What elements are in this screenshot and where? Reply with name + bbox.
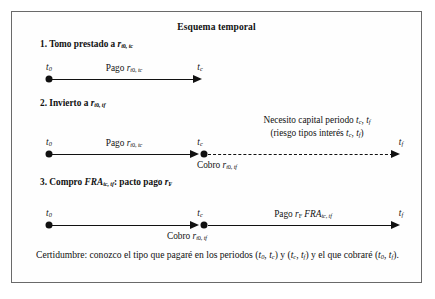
- step-3-tick-end: tf: [399, 208, 403, 218]
- step-2-axis-sub: t0, tc: [130, 141, 142, 148]
- step-2-arrow-mid: [190, 150, 199, 158]
- step-2-heading-text: 2. Invierto a: [40, 98, 91, 108]
- step-2-arrow-end: [391, 150, 400, 158]
- step-3-below-label: Cobro rt0, tf: [167, 231, 207, 241]
- step-3-below-sub: t0, tf: [196, 234, 207, 241]
- step-3-heading: 3. Compro FRAtc, tf: pacto pago rF: [40, 177, 172, 187]
- figure-frame: Esquema temporal 1. Tomo prestado a rt0,…: [11, 11, 422, 283]
- step-1-axis-sub: t0, tc: [130, 66, 142, 73]
- step-3-tick-mid: tc: [197, 208, 202, 218]
- step-3-heading-sub: tc, tf: [103, 180, 114, 187]
- figure-title: Esquema temporal: [12, 22, 421, 32]
- step-3-heading-var: FRA: [85, 177, 104, 187]
- step-3-dot-start: [46, 222, 53, 229]
- step-3-arrow-mid: [190, 221, 199, 229]
- step-1-axis-label-text: Pago: [106, 63, 127, 73]
- step-1-arrow-end: [193, 75, 202, 83]
- step-1-tick-end: tc: [197, 62, 202, 72]
- step-2-heading: 2. Invierto a rt0, tf: [40, 98, 105, 108]
- step-2-below-label: Cobro rt0, tf: [197, 160, 237, 170]
- step-3-tick-start: t0: [46, 208, 52, 218]
- step-2-note-line-2: (riesgo tipos interés tc, tf): [270, 128, 363, 138]
- step-2-below-label-text: Cobro: [197, 160, 223, 170]
- step-3-axis-sub: tc, tf: [321, 212, 331, 219]
- step-1-dot-start: [46, 76, 53, 83]
- step-3-axis-label: Pago rF FRAtc, tf: [274, 209, 332, 219]
- step-2-axis-line-solid: [49, 154, 197, 155]
- step-2-dot-start: [46, 151, 53, 158]
- step-3-below-label-text: Cobro: [167, 231, 193, 241]
- figure-inner: Esquema temporal 1. Tomo prestado a rt0,…: [12, 12, 421, 282]
- step-3-arrow-end: [391, 221, 400, 229]
- step-2-tick-start: t0: [46, 137, 52, 147]
- step-2-tick-end: tf: [399, 137, 403, 147]
- step-2-below-sub: t0, tf: [226, 163, 237, 170]
- conclusion-paragraph: Certidumbre: conozco el tipo que pagaré …: [36, 248, 406, 264]
- step-1-axis-line: [49, 79, 197, 80]
- step-1-axis-label: Pago rt0, tc: [106, 63, 142, 73]
- step-2-dot-mid: [201, 151, 208, 158]
- step-1-tick-start: t0: [46, 62, 52, 72]
- step-2-note-line-1: Necesito capital periodo tc, tf: [263, 115, 370, 125]
- step-2-tick-mid: tc: [197, 137, 202, 147]
- step-1-heading-text: 1. Tomo prestado a: [40, 39, 118, 49]
- step-3-axis-label-text: Pago: [274, 209, 295, 219]
- step-2-axis-label-text: Pago: [106, 138, 127, 148]
- step-3-dot-mid: [201, 222, 208, 229]
- step-3-heading-sub-2: F: [168, 180, 172, 187]
- step-2-axis-label: Pago rt0, tc: [106, 138, 142, 148]
- step-1-heading-sub: t0, tc: [121, 42, 133, 49]
- step-2-heading-sub: t0, tf: [94, 101, 105, 108]
- step-3-axis-line-left: [49, 225, 197, 226]
- step-1-heading: 1. Tomo prestado a rt0, tc: [40, 39, 133, 49]
- step-2-axis-line-dashed: [208, 154, 393, 155]
- step-3-heading-text: 3. Compro: [40, 177, 85, 187]
- step-3-heading-suffix: : pacto pago: [114, 177, 165, 187]
- step-3-axis-line-right: [208, 225, 393, 226]
